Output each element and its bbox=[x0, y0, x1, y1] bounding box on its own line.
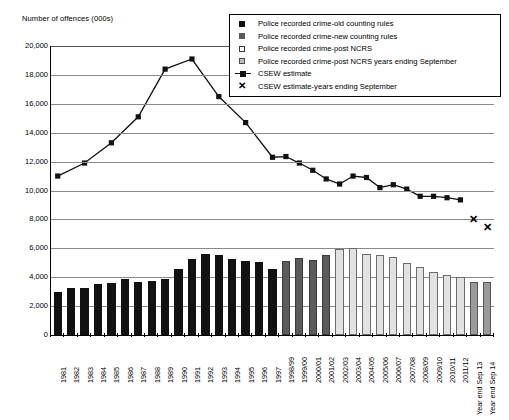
bar bbox=[483, 282, 491, 335]
x-axis-tick: 1993 bbox=[221, 367, 229, 383]
y-axis-tick: 14,000 bbox=[4, 129, 48, 137]
x-axis-tick: 2004/05 bbox=[368, 357, 376, 383]
csew-data-point bbox=[136, 114, 141, 119]
x-axis-tick: 2002/03 bbox=[342, 357, 350, 383]
bar bbox=[80, 288, 88, 335]
csew-data-point bbox=[163, 67, 168, 72]
x-axis-tickmark bbox=[171, 333, 172, 337]
bar bbox=[456, 277, 464, 335]
x-axis-tick: Year end Sep 14 bbox=[489, 362, 497, 415]
bar bbox=[161, 279, 169, 335]
legend-label: Police recorded crime-post NCRS bbox=[258, 44, 496, 53]
x-axis-tickmark bbox=[104, 333, 105, 337]
bar bbox=[67, 288, 75, 335]
bar bbox=[107, 283, 115, 335]
legend-label: Police recorded crime-new counting rules bbox=[258, 32, 496, 41]
filled-gray-square-icon bbox=[235, 32, 255, 41]
csew-data-point bbox=[458, 197, 463, 202]
gridline bbox=[51, 219, 494, 220]
x-axis-tickmark bbox=[157, 333, 158, 337]
bar bbox=[403, 263, 411, 335]
x-axis-tick: 1999/00 bbox=[301, 357, 309, 383]
y-axis-tick: 0 bbox=[4, 331, 48, 339]
x-axis-tickmark bbox=[305, 333, 306, 337]
x-axis-tick: 1994 bbox=[234, 367, 242, 383]
bar bbox=[389, 257, 397, 335]
x-axis-tickmark bbox=[359, 333, 360, 337]
x-axis-tickmark bbox=[265, 333, 266, 337]
crime-statistics-chart: Number of offences (000s) 02,0004,0006,0… bbox=[0, 0, 509, 420]
x-axis-tick: 1982 bbox=[73, 367, 81, 383]
x-axis-tickmark bbox=[372, 333, 373, 337]
x-axis-tick: 2000/01 bbox=[315, 357, 323, 383]
x-axis-tickmark bbox=[318, 333, 319, 337]
bar bbox=[335, 249, 343, 335]
x-axis-tick: 2006/07 bbox=[395, 357, 403, 383]
legend-item-csew-estimate: CSEW estimate bbox=[235, 69, 496, 78]
x-axis-tickmark bbox=[77, 333, 78, 337]
x-axis-tick: 1995 bbox=[248, 367, 256, 383]
y-axis-tick: 18,000 bbox=[4, 71, 48, 79]
x-axis-tickmark bbox=[412, 333, 413, 337]
bar bbox=[188, 259, 196, 335]
x-axis-tickmark bbox=[238, 333, 239, 337]
y-axis-tick: 12,000 bbox=[4, 158, 48, 166]
gridline bbox=[51, 133, 494, 134]
y-axis-tick: 20,000 bbox=[4, 42, 48, 50]
csew-data-point bbox=[283, 154, 288, 159]
x-axis-tickmark bbox=[439, 333, 440, 337]
x-axis-tick: 1981 bbox=[60, 367, 68, 383]
x-axis-tickmark bbox=[211, 333, 212, 337]
bar bbox=[174, 269, 182, 335]
csew-data-point bbox=[243, 120, 248, 125]
x-axis-tickmark bbox=[198, 333, 199, 337]
bar bbox=[241, 261, 249, 335]
csew-data-point bbox=[377, 185, 382, 190]
x-axis-tick: 1985 bbox=[113, 367, 121, 383]
light-gray-square-icon bbox=[235, 57, 255, 66]
open-square-icon bbox=[235, 44, 255, 53]
x-axis-tickmark bbox=[117, 333, 118, 337]
x-axis-tick: 2010/11 bbox=[449, 358, 457, 383]
legend-item-post-ncrs: Police recorded crime-post NCRS bbox=[235, 44, 496, 53]
x-axis-tickmark bbox=[278, 333, 279, 337]
x-axis-tickmark bbox=[251, 333, 252, 337]
bar bbox=[416, 267, 424, 335]
gridline bbox=[51, 248, 494, 249]
bar bbox=[54, 292, 62, 335]
csew-data-point bbox=[216, 94, 221, 99]
legend-label: Police recorded crime-post NCRS years en… bbox=[258, 57, 496, 66]
x-axis-tickmark bbox=[345, 333, 346, 337]
bar bbox=[295, 258, 303, 335]
y-axis-tick: 4,000 bbox=[4, 273, 48, 281]
x-axis-tick: 2001/02 bbox=[328, 357, 336, 383]
y-axis-tick: 10,000 bbox=[4, 187, 48, 195]
legend-label: Police recorded crime-old counting rules bbox=[258, 19, 496, 28]
y-axis-tick: 16,000 bbox=[4, 100, 48, 108]
x-axis-tick: Year end Sep 13 bbox=[476, 362, 484, 415]
bar bbox=[349, 248, 357, 335]
x-axis-tick: 1987 bbox=[140, 367, 148, 383]
x-axis-tickmark bbox=[131, 333, 132, 337]
gridline bbox=[51, 104, 494, 105]
gridline bbox=[51, 191, 494, 192]
bar bbox=[228, 259, 236, 335]
legend-item-csew-september: ✕ CSEW estimate-years ending September bbox=[235, 82, 496, 91]
legend-item-old-counting-rules: Police recorded crime-old counting rules bbox=[235, 19, 496, 28]
x-axis-tickmark bbox=[50, 333, 51, 337]
x-axis-tickmark bbox=[144, 333, 145, 337]
legend-item-new-counting-rules: Police recorded crime-new counting rules bbox=[235, 32, 496, 41]
bar bbox=[148, 281, 156, 335]
csew-september-marker: ✕ bbox=[469, 214, 478, 225]
csew-data-point bbox=[364, 175, 369, 180]
legend-label: CSEW estimate-years ending September bbox=[258, 82, 496, 91]
x-axis-tick: 2003/04 bbox=[355, 357, 363, 383]
bar bbox=[282, 261, 290, 335]
x-axis-tick: 1992 bbox=[207, 367, 215, 383]
x-axis-tick: 1989 bbox=[167, 367, 175, 383]
csew-data-point bbox=[270, 155, 275, 160]
x-axis-tickmark bbox=[493, 333, 494, 337]
x-axis-tick-labels: 1981198219831984198519861987198819891990… bbox=[50, 337, 493, 419]
x-axis-tick: 1986 bbox=[127, 367, 135, 383]
csew-data-point bbox=[391, 182, 396, 187]
